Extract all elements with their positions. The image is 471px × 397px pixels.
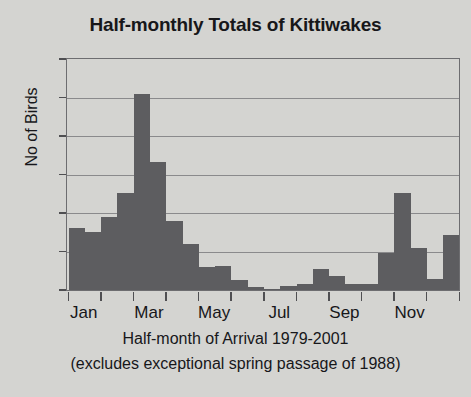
bar[interactable] xyxy=(280,286,296,290)
bar[interactable] xyxy=(215,266,231,290)
bar[interactable] xyxy=(183,244,199,290)
x-tick-label: May xyxy=(179,303,249,323)
chart-title: Half-monthly Totals of Kittiwakes xyxy=(0,14,471,36)
x-tick-mark xyxy=(263,292,265,301)
x-tick-label: Jul xyxy=(244,303,314,323)
x-tick-mark xyxy=(328,292,330,301)
chart-container: Half-monthly Totals of Kittiwakes No of … xyxy=(0,0,471,397)
bar[interactable] xyxy=(297,284,313,290)
y-tick-mark xyxy=(59,174,66,176)
bar[interactable] xyxy=(264,289,280,291)
x-tick-mark xyxy=(393,292,395,301)
x-tick-label: Mar xyxy=(114,303,184,323)
x-tick-mark xyxy=(100,292,102,301)
bar[interactable] xyxy=(150,162,166,290)
bar[interactable] xyxy=(378,253,394,290)
x-tick-mark xyxy=(68,292,70,301)
bar[interactable] xyxy=(199,267,215,290)
y-tick-mark xyxy=(59,97,66,99)
bar[interactable] xyxy=(134,94,150,290)
bar[interactable] xyxy=(329,276,345,290)
bar[interactable] xyxy=(443,235,459,290)
x-axis-note: (excludes exceptional spring passage of … xyxy=(0,355,471,373)
x-tick-mark xyxy=(230,292,232,301)
x-tick-label: Sep xyxy=(309,303,379,323)
y-axis-title: No of Birds xyxy=(23,47,41,207)
y-tick-mark xyxy=(59,212,66,214)
bar[interactable] xyxy=(166,221,182,290)
x-tick-mark xyxy=(296,292,298,301)
bar[interactable] xyxy=(85,232,101,290)
x-tick-mark xyxy=(133,292,135,301)
x-tick-label: Jan xyxy=(49,303,119,323)
bar-series xyxy=(67,59,459,290)
x-tick-mark xyxy=(165,292,167,301)
bar[interactable] xyxy=(394,193,410,290)
y-tick-mark xyxy=(59,58,66,60)
x-tick-label: Nov xyxy=(375,303,445,323)
x-tick-mark xyxy=(361,292,363,301)
plot-area xyxy=(66,58,460,291)
bar[interactable] xyxy=(362,284,378,290)
bar[interactable] xyxy=(427,279,443,290)
x-axis-title: Half-month of Arrival 1979-2001 xyxy=(0,330,471,348)
x-tick-mark xyxy=(426,292,428,301)
bar[interactable] xyxy=(248,287,264,290)
y-tick-mark xyxy=(59,289,66,291)
bar[interactable] xyxy=(101,217,117,290)
x-tick-mark xyxy=(459,292,461,301)
y-tick-mark xyxy=(59,135,66,137)
bar[interactable] xyxy=(345,284,361,290)
bar[interactable] xyxy=(313,269,329,290)
x-tick-mark xyxy=(198,292,200,301)
bar[interactable] xyxy=(411,248,427,290)
y-tick-mark xyxy=(59,251,66,253)
bar[interactable] xyxy=(117,193,133,290)
bar[interactable] xyxy=(231,280,247,290)
bar[interactable] xyxy=(69,228,85,290)
